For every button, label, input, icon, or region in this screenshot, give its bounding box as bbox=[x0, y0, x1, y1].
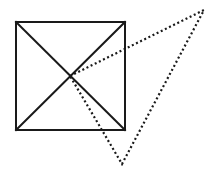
geometry-diagram bbox=[0, 0, 221, 179]
dotted-triangle bbox=[70, 10, 204, 164]
